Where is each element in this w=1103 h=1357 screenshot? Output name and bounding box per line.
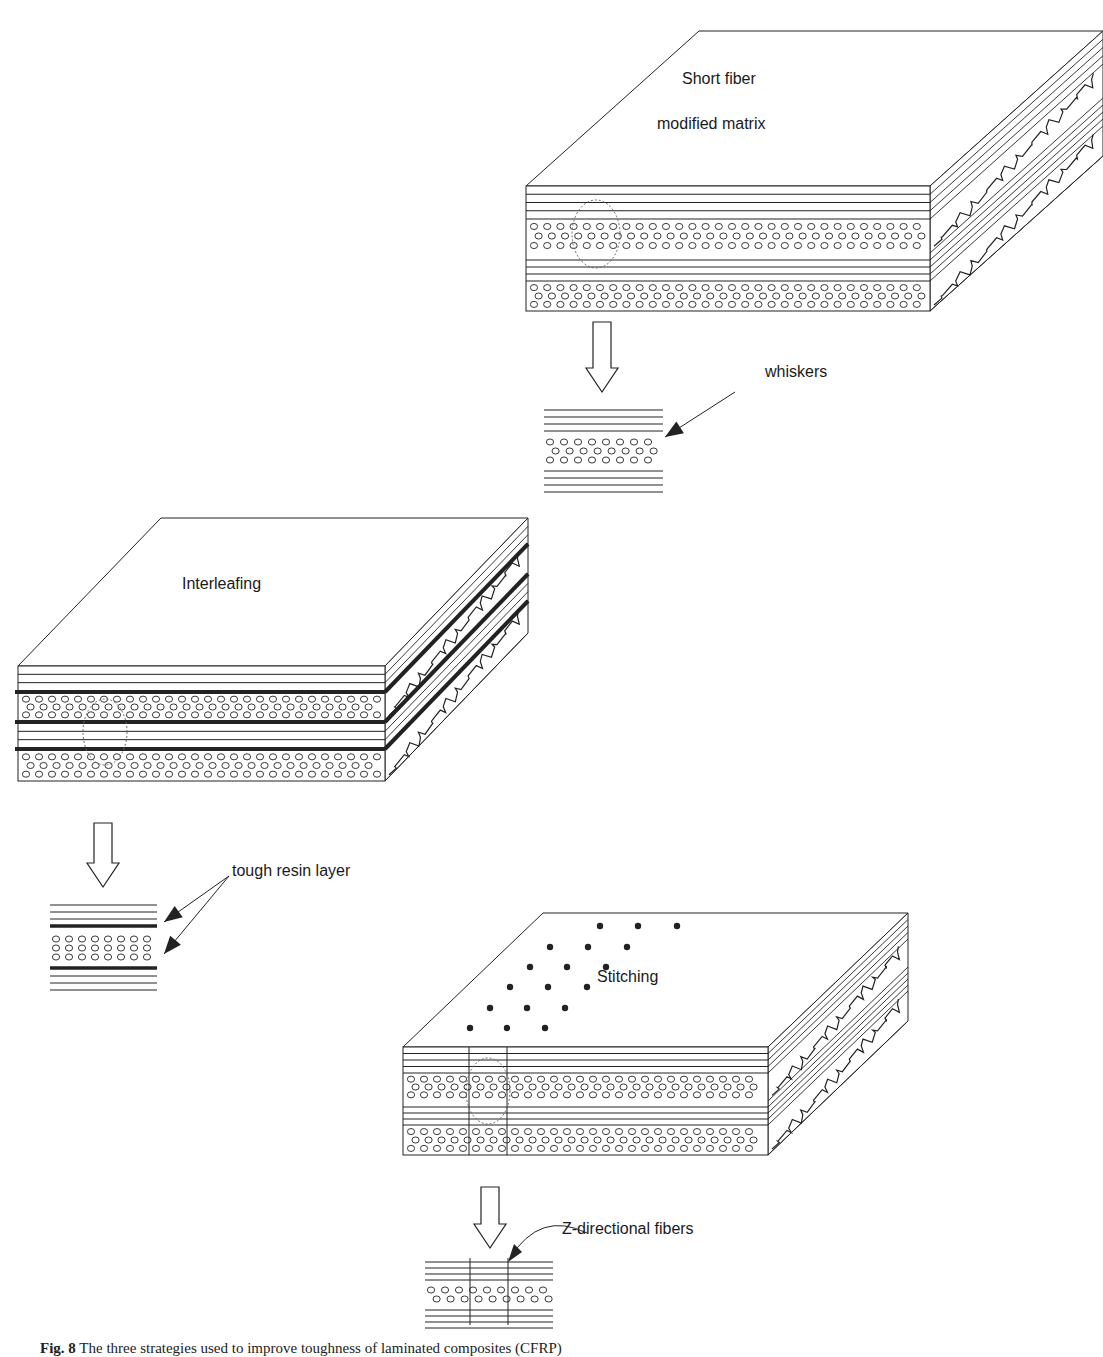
modified-matrix-title: modified matrix — [657, 115, 765, 133]
stitching-title: Stitching — [597, 968, 658, 986]
tough-resin-layer-label: tough resin layer — [232, 862, 350, 880]
interleafing-title: Interleafing — [182, 575, 261, 593]
figure-caption: Fig. 8 The three strategies used to impr… — [40, 1340, 562, 1357]
caption-label: Fig. 8 — [40, 1340, 76, 1356]
short-fiber-title: Short fiber — [682, 70, 756, 88]
whiskers-label: whiskers — [765, 363, 827, 381]
caption-text: The three strategies used to improve tou… — [79, 1340, 561, 1356]
z-directional-fibers-label: Z-directional fibers — [562, 1220, 694, 1238]
